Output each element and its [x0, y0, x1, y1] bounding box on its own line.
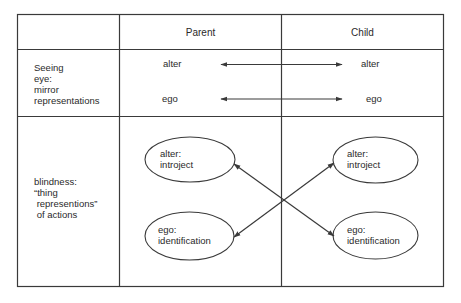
- row-label-seeing-eye: Seeing eye: mirror representations: [34, 62, 99, 106]
- parent-alter-label: alter: [163, 58, 181, 69]
- parent-child-representation-diagram: Parent Child Seeing eye: mirror represen…: [0, 0, 461, 303]
- header-child: Child: [282, 27, 443, 38]
- diagram-canvas: [0, 0, 461, 303]
- crossing-arrows: [234, 163, 334, 237]
- header-parent: Parent: [120, 27, 281, 38]
- child-alter-introject-text: alter: introject: [347, 148, 380, 170]
- child-alter-label: alter: [361, 58, 379, 69]
- parent-alter-introject-text: alter: introject: [160, 148, 193, 170]
- parent-ego-identification-text: ego: identification: [158, 224, 211, 246]
- child-ego-label: ego: [366, 93, 382, 104]
- parent-ego-label: ego: [162, 93, 178, 104]
- child-ego-identification-text: ego: identification: [347, 224, 400, 246]
- row-label-blindness: blindness: “thing representions” of acti…: [34, 176, 97, 220]
